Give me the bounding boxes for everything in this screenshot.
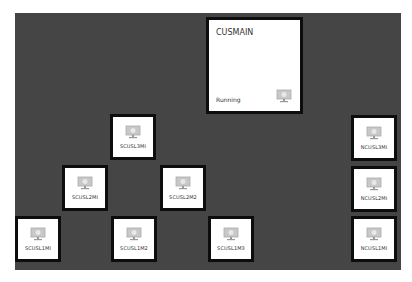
vm-name: SCUSL2M2 xyxy=(163,194,203,200)
vm-name: CUSMAIN xyxy=(216,28,253,37)
vm-tile-scusl3mi[interactable]: SCUSL3MI xyxy=(110,114,156,160)
monitor-icon xyxy=(223,227,239,241)
vm-tile-scusl1m2[interactable]: SCUSL1M2 xyxy=(111,216,157,262)
vm-name: SCUSL1M3 xyxy=(211,245,251,251)
vm-status: Running xyxy=(216,96,241,103)
vm-name: SCUSL1M2 xyxy=(114,245,154,251)
monitor-icon xyxy=(175,176,191,190)
monitor-icon xyxy=(276,89,292,103)
monitor-icon xyxy=(366,177,382,191)
vm-name: NCUSL2MI xyxy=(354,195,394,201)
vm-tile-scusl1mi[interactable]: SCUSL1MI xyxy=(15,216,61,262)
vm-tile-scusl2mi[interactable]: SCUSL2MI xyxy=(62,165,108,211)
monitor-icon xyxy=(125,125,141,139)
vm-tile-cusmain[interactable]: CUSMAIN Running xyxy=(206,17,303,114)
vm-tile-scusl2m2[interactable]: SCUSL2M2 xyxy=(160,165,206,211)
vm-name: NCUSL3MI xyxy=(354,144,394,150)
vm-name: NCUSL1MI xyxy=(354,245,394,251)
vm-tile-ncusl2mi[interactable]: NCUSL2MI xyxy=(351,166,397,212)
vm-name: SCUSL1MI xyxy=(18,245,58,251)
monitor-icon xyxy=(126,227,142,241)
monitor-icon xyxy=(366,227,382,241)
monitor-icon xyxy=(366,126,382,140)
vm-name: SCUSL3MI xyxy=(113,143,153,149)
vm-tile-ncusl3mi[interactable]: NCUSL3MI xyxy=(351,115,397,161)
vm-tile-scusl1m3[interactable]: SCUSL1M3 xyxy=(208,216,254,262)
monitor-icon xyxy=(77,176,93,190)
vm-tile-ncusl1mi[interactable]: NCUSL1MI xyxy=(351,216,397,262)
monitor-icon xyxy=(30,227,46,241)
vm-name: SCUSL2MI xyxy=(65,194,105,200)
